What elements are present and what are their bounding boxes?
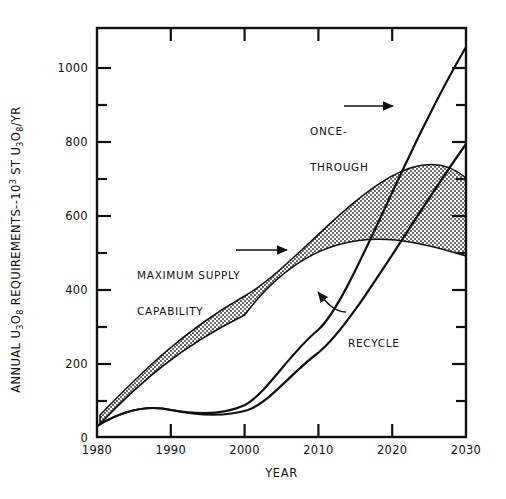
y-minor-ticks bbox=[97, 105, 107, 401]
x-ticks-bottom bbox=[171, 424, 392, 437]
plot-canvas bbox=[0, 0, 506, 499]
x-ticks-top bbox=[171, 28, 392, 41]
y-major-ticks bbox=[97, 68, 111, 364]
uranium-requirements-chart: ANNUAL U3O8 REQUIREMENTS--103 ST U3O8/YR… bbox=[0, 0, 506, 499]
